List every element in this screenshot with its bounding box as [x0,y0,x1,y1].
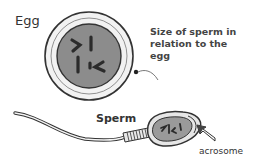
egg-label: Egg [15,13,40,28]
egg-icon [45,12,133,100]
small-sperm-icon [134,70,158,80]
acrosome-label: acrosome [199,146,243,156]
sperm-label: Sperm [96,112,136,125]
sperm-head-icon [148,112,201,147]
size-note-label: Size of sperm in relation to the egg [150,26,245,62]
sperm-midpiece-icon [123,128,150,142]
acrosome-arrow-icon [197,125,215,141]
diagram: Egg Size of sperm in relation to the egg… [0,0,253,167]
